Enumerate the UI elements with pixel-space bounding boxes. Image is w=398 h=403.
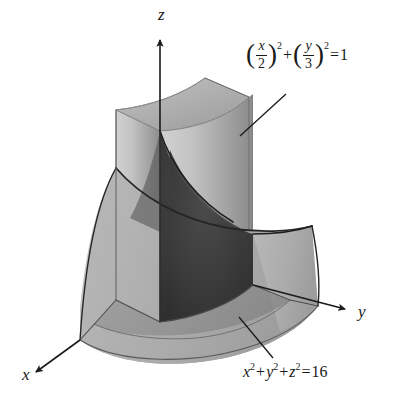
fraction-numerator-x: x — [256, 39, 267, 54]
exponent-1: 2 — [277, 40, 282, 51]
fraction-denominator-2: 2 — [256, 57, 267, 72]
axis-label-x: x — [22, 366, 30, 383]
plus-operator-b: + — [278, 363, 289, 380]
axis-label-z: z — [158, 6, 165, 23]
paren-open-1: ( — [246, 41, 255, 68]
fraction-denominator-3: 3 — [303, 57, 314, 72]
sphere-equation-label: x2+y2+z2=16 — [243, 363, 328, 380]
sphere-exp-z: 2 — [296, 361, 301, 372]
sphere-exp-x: 2 — [250, 361, 255, 372]
paren-open-2: ( — [293, 41, 302, 68]
plus-operator-a: + — [255, 363, 266, 380]
cylinder-rhs-value: 1 — [340, 46, 348, 63]
exponent-2: 2 — [324, 40, 329, 51]
sphere-exp-y: 2 — [273, 361, 278, 372]
paren-close-2: ) — [315, 41, 324, 68]
plus-operator-1: + — [282, 46, 293, 63]
x-axis — [36, 340, 80, 372]
sphere-var-z: z — [289, 363, 295, 380]
equals-sign-2: = — [301, 363, 312, 380]
fraction-y-over-3: y3 — [303, 39, 314, 71]
fraction-x-over-2: x2 — [256, 39, 267, 71]
equals-sign-1: = — [329, 46, 340, 63]
paren-close-1: ) — [268, 41, 277, 68]
sphere-rhs-value: 16 — [312, 363, 328, 380]
axis-label-y: y — [358, 303, 366, 320]
figure-canvas: z y x (x2)2+(y3)2=1 x2+y2+z2=16 — [0, 0, 398, 403]
cylinder-equation-label: (x2)2+(y3)2=1 — [246, 40, 348, 72]
fraction-numerator-y: y — [303, 39, 314, 54]
